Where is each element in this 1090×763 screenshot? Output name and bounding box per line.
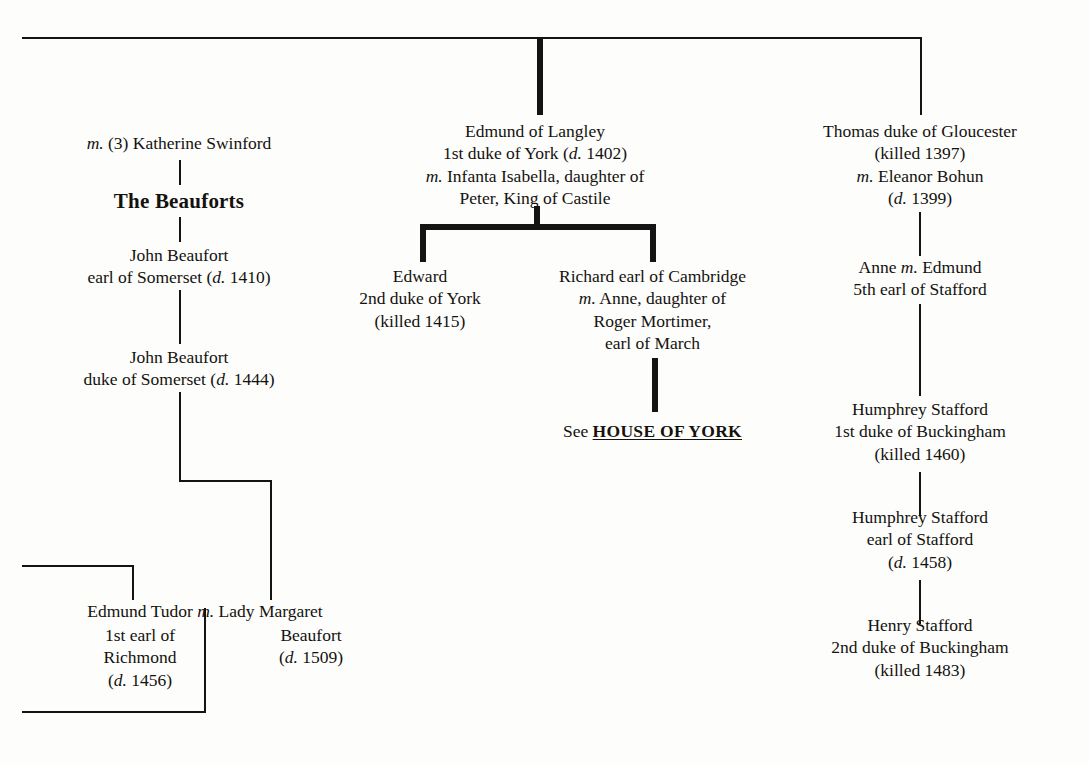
connector-down-to-margaret-beaufort: [270, 480, 272, 600]
john-beaufort-duke-line-1: John Beaufort: [19, 346, 339, 368]
connector-tudor-issue-left: [22, 711, 206, 713]
see-prefix-text: See: [563, 421, 593, 441]
node-edmund-tudor: Edmund Tudor m. Lady Margaret: [45, 600, 365, 622]
thomas-gloucester-line-2: (killed 1397): [780, 142, 1060, 164]
connector-langley-fork-bar: [420, 224, 656, 230]
node-edmund-tudor-detail: 1st earl of Richmond (d. 1456): [45, 624, 235, 691]
edward-york-line-2: 2nd duke of York: [340, 287, 500, 309]
node-edmund-langley: Edmund of Langley 1st duke of York (d. 1…: [380, 120, 690, 210]
john-beaufort-earl-line-1: John Beaufort: [19, 244, 339, 266]
connector-tudor-inbound-drop: [132, 565, 134, 600]
genealogy-chart: m. m. (3) Katherine Swinford(3) Katherin…: [0, 0, 1090, 763]
node-humphrey-stafford-earl: Humphrey Stafford earl of Stafford (d. 1…: [780, 506, 1060, 573]
edmund-tudor-line-2: 1st earl of: [45, 624, 235, 646]
connector-anne-to-humphrey-duke: [919, 304, 921, 396]
edmund-tudor-line-3: Richmond: [45, 646, 235, 668]
richard-cambridge-line-1: Richard earl of Cambridge: [525, 265, 780, 287]
node-humphrey-stafford-duke: Humphrey Stafford 1st duke of Buckingham…: [780, 398, 1060, 465]
humphrey-duke-line-3: (killed 1460): [780, 443, 1060, 465]
connector-beauforts-to-john-earl: [179, 217, 181, 242]
humphrey-duke-line-2: 1st duke of Buckingham: [780, 420, 1060, 442]
richard-cambridge-line-4: earl of March: [525, 332, 780, 354]
connector-tudor-inbound-bar: [22, 565, 134, 567]
node-beauforts-heading: The Beauforts: [29, 188, 329, 215]
connector-john-duke-right: [179, 480, 272, 482]
henry-stafford-line-3: (killed 1483): [780, 659, 1060, 681]
beauforts-heading-text: The Beauforts: [29, 188, 329, 215]
connector-top-bar: [22, 37, 922, 39]
node-margaret-beaufort: Beaufort (d. 1509): [216, 624, 406, 669]
node-thomas-gloucester: Thomas duke of Gloucester (killed 1397) …: [780, 120, 1060, 210]
connector-fork-to-richard: [650, 224, 656, 262]
connector-swinford-to-beauforts: [179, 160, 181, 185]
edmund-langley-line-4: Peter, King of Castile: [380, 187, 690, 209]
edward-york-line-1: Edward: [340, 265, 500, 287]
node-see-house-of-york: See HOUSE OF YORK: [525, 420, 780, 442]
house-of-york-link[interactable]: HOUSE OF YORK: [593, 421, 742, 441]
node-edward-york: Edward 2nd duke of York (killed 1415): [340, 265, 500, 332]
connector-to-edmund-langley: [537, 37, 543, 115]
connector-to-thomas-gloucester: [920, 37, 922, 115]
node-katherine-swinford: m. m. (3) Katherine Swinford(3) Katherin…: [29, 132, 329, 154]
node-john-beaufort-duke: John Beaufort duke of Somerset (d. 1444): [19, 346, 339, 391]
thomas-gloucester-line-1: Thomas duke of Gloucester: [780, 120, 1060, 142]
humphrey-earl-line-1: Humphrey Stafford: [780, 506, 1060, 528]
henry-stafford-line-1: Henry Stafford: [780, 614, 1060, 636]
connector-richard-to-house-of-york: [652, 358, 658, 412]
node-anne-edmund-stafford: Anne m. Edmund 5th earl of Stafford: [780, 256, 1060, 301]
anne-edmund-line-2: 5th earl of Stafford: [780, 278, 1060, 300]
humphrey-duke-line-1: Humphrey Stafford: [780, 398, 1060, 420]
connector-john-duke-down: [179, 392, 181, 482]
connector-john-earl-to-john-duke: [179, 290, 181, 344]
connector-fork-to-edward: [420, 224, 426, 262]
node-john-beaufort-earl: John Beaufort earl of Somerset (d. 1410): [19, 244, 339, 289]
edward-york-line-3: (killed 1415): [340, 310, 500, 332]
connector-gloucester-to-anne: [919, 212, 921, 256]
node-henry-stafford: Henry Stafford 2nd duke of Buckingham (k…: [780, 614, 1060, 681]
margaret-beaufort-line-1: Beaufort: [216, 624, 406, 646]
edmund-langley-line-1: Edmund of Langley: [380, 120, 690, 142]
henry-stafford-line-2: 2nd duke of Buckingham: [780, 636, 1060, 658]
node-richard-cambridge: Richard earl of Cambridge m. Anne, daugh…: [525, 265, 780, 355]
humphrey-earl-line-2: earl of Stafford: [780, 528, 1060, 550]
richard-cambridge-line-3: Roger Mortimer,: [525, 310, 780, 332]
